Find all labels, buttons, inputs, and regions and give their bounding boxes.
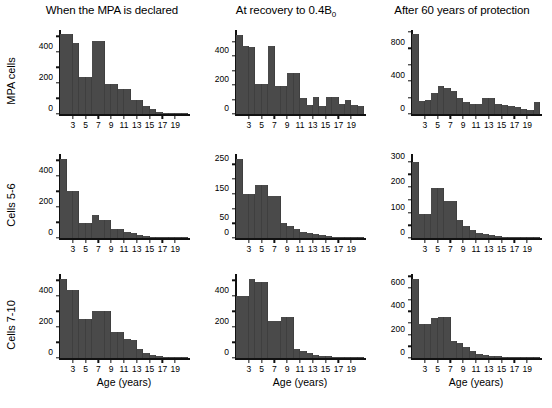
x-tick-label: 13 bbox=[132, 364, 141, 374]
y-tick-label: 400 bbox=[215, 285, 229, 295]
histogram-panel-cells56-when-declared: 020040035791113151719 bbox=[18, 150, 194, 266]
x-tick-label: 3 bbox=[70, 120, 75, 130]
x-tick-label: 17 bbox=[334, 120, 343, 130]
tick-mark bbox=[514, 240, 515, 243]
y-tick-label: 200 bbox=[39, 316, 53, 326]
x-axis-ticks: 35791113151719 bbox=[412, 240, 540, 258]
x-tick-label: 15 bbox=[497, 244, 506, 254]
tick-mark bbox=[463, 240, 464, 243]
x-tick-label: 3 bbox=[70, 364, 75, 374]
tick-mark bbox=[408, 31, 411, 32]
tick-mark bbox=[299, 240, 300, 243]
y-tick-label: 400 bbox=[39, 285, 53, 295]
y-tick-label: 800 bbox=[391, 37, 405, 47]
tick-mark bbox=[111, 116, 112, 119]
tick-mark bbox=[72, 360, 73, 363]
y-tick-label: 0 bbox=[224, 227, 229, 237]
x-tick-label: 13 bbox=[484, 244, 493, 254]
tick-mark bbox=[85, 116, 86, 119]
tick-mark bbox=[232, 280, 235, 281]
tick-mark bbox=[56, 237, 60, 238]
tick-mark bbox=[56, 206, 60, 207]
tick-mark bbox=[56, 51, 60, 52]
tick-mark bbox=[56, 67, 59, 68]
tick-mark bbox=[56, 280, 59, 281]
tick-mark bbox=[475, 360, 476, 363]
x-tick-label: 13 bbox=[308, 120, 317, 130]
tick-mark bbox=[424, 116, 425, 119]
tick-mark bbox=[56, 311, 59, 312]
tick-mark bbox=[123, 116, 124, 119]
histogram-panel-cells56-after-60-years: 010020030035791113151719 bbox=[370, 150, 546, 266]
x-tick-label: 9 bbox=[461, 244, 466, 254]
tick-mark bbox=[408, 174, 411, 175]
x-tick-label: 17 bbox=[510, 120, 519, 130]
tick-mark bbox=[351, 240, 352, 243]
tick-mark bbox=[56, 222, 59, 223]
tick-mark bbox=[232, 237, 236, 238]
tick-mark bbox=[408, 212, 412, 213]
tick-mark bbox=[527, 360, 528, 363]
tick-mark bbox=[85, 360, 86, 363]
tick-mark bbox=[408, 64, 411, 65]
tick-mark bbox=[274, 116, 275, 119]
tick-mark bbox=[338, 360, 339, 363]
tick-mark bbox=[287, 240, 288, 243]
histogram-panel-mpa-cells-when-declared: 020040035791113151719 bbox=[18, 26, 194, 142]
tick-mark bbox=[450, 116, 451, 119]
y-tick-label: 300 bbox=[391, 151, 405, 161]
tick-mark bbox=[136, 240, 137, 243]
tick-mark bbox=[261, 360, 262, 363]
tick-mark bbox=[437, 116, 438, 119]
x-tick-label: 9 bbox=[109, 364, 114, 374]
x-tick-label: 17 bbox=[158, 244, 167, 254]
x-tick-label: 19 bbox=[346, 364, 355, 374]
x-tick-label: 11 bbox=[296, 120, 305, 130]
tick-mark bbox=[287, 116, 288, 119]
tick-mark bbox=[248, 360, 249, 363]
x-tick-label: 5 bbox=[259, 244, 264, 254]
x-tick-label: 5 bbox=[259, 120, 264, 130]
tick-mark bbox=[175, 360, 176, 363]
x-tick-label: 15 bbox=[145, 120, 154, 130]
x-axis-ticks: 35791113151719 bbox=[60, 116, 188, 134]
histogram-bar bbox=[358, 106, 365, 114]
tick-mark bbox=[98, 360, 99, 363]
y-tick-label: 0 bbox=[400, 347, 405, 357]
tick-mark bbox=[408, 322, 411, 323]
tick-mark bbox=[232, 84, 236, 85]
x-tick-label: 7 bbox=[272, 244, 277, 254]
x-axis-ticks: 35791113151719 bbox=[236, 240, 364, 258]
x-tick-label: 5 bbox=[83, 120, 88, 130]
x-tick-label: 11 bbox=[120, 244, 129, 254]
tick-mark bbox=[232, 223, 236, 224]
tick-mark bbox=[136, 360, 137, 363]
tick-mark bbox=[175, 116, 176, 119]
y-tick-label: 400 bbox=[391, 70, 405, 80]
tick-mark bbox=[463, 116, 464, 119]
tick-mark bbox=[325, 240, 326, 243]
y-tick-label: 200 bbox=[215, 74, 229, 84]
y-tick-label: 0 bbox=[48, 227, 53, 237]
x-tick-label: 17 bbox=[510, 244, 519, 254]
y-tick-label: 200 bbox=[391, 324, 405, 334]
tick-mark bbox=[408, 113, 412, 114]
tick-mark bbox=[475, 116, 476, 119]
tick-mark bbox=[437, 360, 438, 363]
y-tick-label: 0 bbox=[224, 347, 229, 357]
tick-mark bbox=[408, 346, 411, 347]
tick-mark bbox=[56, 357, 60, 358]
x-axis-ticks: 35791113151719 bbox=[412, 116, 540, 134]
y-tick-label: 200 bbox=[215, 316, 229, 326]
tick-mark bbox=[111, 360, 112, 363]
x-tick-label: 7 bbox=[96, 120, 101, 130]
x-tick-label: 17 bbox=[158, 364, 167, 374]
tick-mark bbox=[437, 240, 438, 243]
tick-mark bbox=[408, 199, 411, 200]
column-title-at-recovery: At recovery to 0.4B0 bbox=[196, 4, 376, 16]
x-tick-label: 19 bbox=[170, 244, 179, 254]
y-tick-label: 400 bbox=[215, 45, 229, 55]
x-tick-label: 19 bbox=[522, 244, 531, 254]
y-tick-label: 200 bbox=[391, 176, 405, 186]
histogram-panel-mpa-cells-after-60-years: 040080035791113151719 bbox=[370, 26, 546, 142]
